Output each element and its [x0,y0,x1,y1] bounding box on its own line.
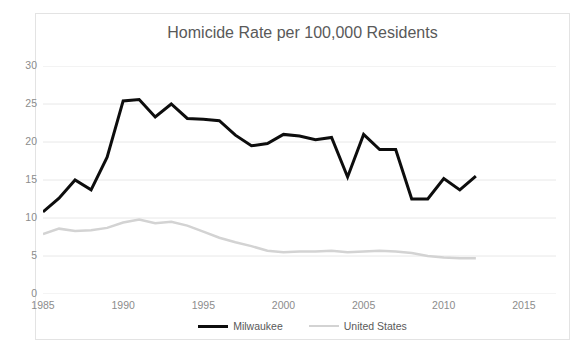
y-axis-tick-label: 10 [13,211,37,223]
series-line-united-states [43,220,476,259]
y-axis-tick-label: 15 [13,173,37,185]
y-axis-tick-label: 5 [13,249,37,261]
legend-item-united-states: United States [309,320,407,332]
y-axis-tick-label: 25 [13,97,37,109]
series-line-milwaukee [43,99,476,211]
plot-area [43,66,556,294]
legend-swatch-united-states [309,325,339,327]
x-axis-tick-label: 1990 [111,299,134,311]
x-axis-tick-label: 2005 [352,299,375,311]
x-axis-tick-label: 2000 [272,299,295,311]
x-axis-tick-label: 2010 [432,299,455,311]
x-axis-tick-label: 1995 [192,299,215,311]
plot-canvas [43,66,556,294]
chart-legend: Milwaukee United States [35,320,570,332]
legend-item-milwaukee: Milwaukee [198,320,283,332]
legend-label-milwaukee: Milwaukee [233,320,283,332]
x-axis-tick-label: 2015 [512,299,535,311]
chart-screenshot: Homicide Rate per 100,000 Residents Milw… [0,0,582,358]
y-axis-tick-label: 0 [13,287,37,299]
legend-label-united-states: United States [344,320,407,332]
legend-swatch-milwaukee [198,325,228,328]
y-axis-tick-label: 30 [13,59,37,71]
x-axis-tick-label: 1985 [31,299,54,311]
chart-title: Homicide Rate per 100,000 Residents [35,24,570,42]
y-axis-tick-label: 20 [13,135,37,147]
